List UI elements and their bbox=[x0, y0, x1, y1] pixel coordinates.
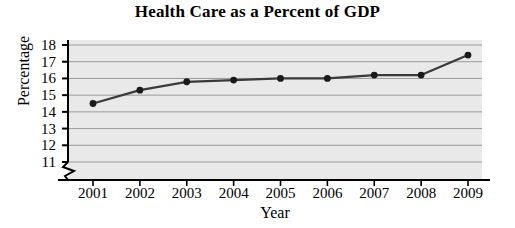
x-tick-label: 2003 bbox=[164, 186, 210, 201]
data-point bbox=[465, 52, 472, 59]
x-tick-label: 2006 bbox=[304, 186, 350, 201]
plot-area bbox=[68, 40, 482, 180]
plot-graphics bbox=[68, 40, 482, 180]
data-markers bbox=[90, 52, 472, 107]
gridlines bbox=[68, 45, 482, 162]
data-point bbox=[90, 100, 97, 107]
y-tick-label: 16 bbox=[22, 71, 56, 86]
x-tick-label: 2002 bbox=[117, 186, 163, 201]
x-axis-title: Year bbox=[68, 204, 482, 222]
y-tick-label: 13 bbox=[22, 122, 56, 137]
chart-title: Health Care as a Percent of GDP bbox=[0, 2, 515, 22]
x-tick-label: 2005 bbox=[258, 186, 304, 201]
x-tick-label: 2004 bbox=[211, 186, 257, 201]
y-tick-label: 14 bbox=[22, 105, 56, 120]
y-tick-label: 17 bbox=[22, 55, 56, 70]
data-series bbox=[90, 52, 472, 107]
y-tick-label: 11 bbox=[22, 155, 56, 170]
y-tick-label: 18 bbox=[22, 38, 56, 53]
y-tick-label: 12 bbox=[22, 138, 56, 153]
x-tick-label: 2009 bbox=[445, 186, 491, 201]
x-tick-label: 2007 bbox=[351, 186, 397, 201]
data-point bbox=[418, 72, 425, 79]
data-point bbox=[230, 77, 237, 84]
data-point bbox=[371, 72, 378, 79]
data-point bbox=[277, 75, 284, 82]
chart-figure: Health Care as a Percent of GDP Percenta… bbox=[0, 0, 515, 228]
data-point bbox=[136, 87, 143, 94]
data-point bbox=[324, 75, 331, 82]
data-point bbox=[183, 78, 190, 85]
y-tick-label: 15 bbox=[22, 88, 56, 103]
x-tick-label: 2008 bbox=[398, 186, 444, 201]
x-tick-label: 2001 bbox=[70, 186, 116, 201]
